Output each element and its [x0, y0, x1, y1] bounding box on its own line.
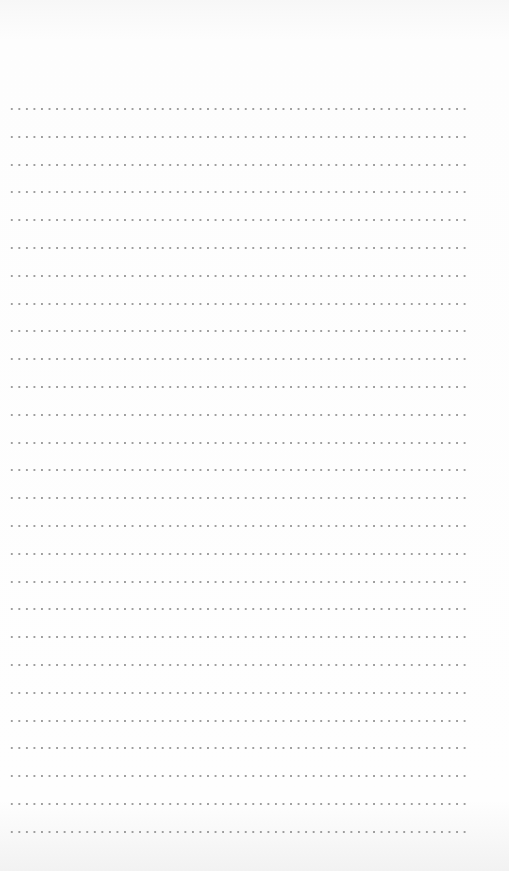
- dotted-line: [8, 831, 470, 833]
- dotted-line: [8, 553, 470, 555]
- dotted-line: [8, 636, 470, 638]
- dotted-line: [8, 275, 470, 277]
- dotted-line: [8, 581, 470, 583]
- dotted-line: [8, 720, 470, 722]
- dotted-line: [8, 303, 470, 305]
- dotted-line: [8, 692, 470, 694]
- dotted-line: [8, 442, 470, 444]
- dotted-line: [8, 747, 470, 749]
- dotted-line: [8, 775, 470, 777]
- dotted-line: [8, 414, 470, 416]
- dotted-line: [8, 803, 470, 805]
- dotted-line: [8, 247, 470, 249]
- dotted-line: [8, 525, 470, 527]
- dotted-line: [8, 664, 470, 666]
- dotted-line: [8, 469, 470, 471]
- lined-paper: [0, 0, 509, 871]
- dotted-line: [8, 358, 470, 360]
- dotted-line: [8, 608, 470, 610]
- dotted-line: [8, 136, 470, 138]
- dotted-line: [8, 191, 470, 193]
- dotted-line: [8, 386, 470, 388]
- dotted-line: [8, 219, 470, 221]
- dotted-line: [8, 164, 470, 166]
- dotted-line: [8, 497, 470, 499]
- dotted-line: [8, 330, 470, 332]
- dotted-line: [8, 108, 470, 110]
